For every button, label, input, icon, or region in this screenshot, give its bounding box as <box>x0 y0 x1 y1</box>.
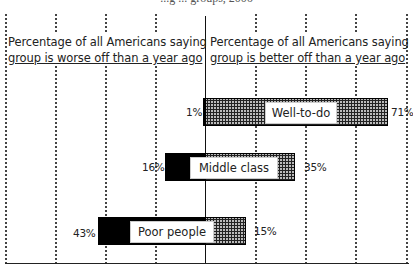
gridline <box>406 14 408 264</box>
right-annotation: Percentage of all Americans saying group… <box>210 34 404 66</box>
right-annotation-line2: group is better off than a year ago <box>210 50 404 66</box>
value-label-worse: 1% <box>186 105 202 119</box>
value-label-worse: 43% <box>73 226 95 240</box>
category-label: Well-to-do <box>265 102 337 124</box>
category-label: Poor people <box>130 221 214 243</box>
left-annotation-line1: Percentage of all Americans saying <box>8 34 202 50</box>
category-text: Middle class <box>199 161 269 175</box>
left-annotation-line2: group is worse off than a year ago <box>8 50 202 66</box>
right-annotation-line1: Percentage of all Americans saying <box>210 34 404 50</box>
left-annotation: Percentage of all Americans saying group… <box>8 34 202 66</box>
value-label-worse: 16% <box>142 160 164 174</box>
category-label: Middle class <box>190 157 278 179</box>
diverging-bar-chart: Percentage of all Americans saying group… <box>0 0 413 271</box>
value-label-better: 71% <box>391 105 413 119</box>
category-text: Well-to-do <box>272 106 331 120</box>
category-text: Poor people <box>138 225 206 239</box>
value-label-better: 15% <box>254 224 276 238</box>
gridline <box>5 14 7 264</box>
value-label-better: 35% <box>304 160 326 174</box>
x-axis-baseline <box>5 263 409 264</box>
